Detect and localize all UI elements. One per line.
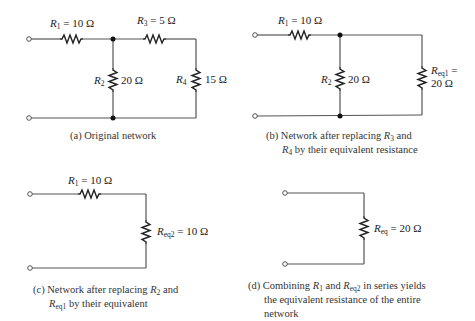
panel-b-after-r3-r4: R1 = 10 Ω R2 20 Ω Req1 = 20 Ω: [253, 14, 458, 119]
terminal-top: [283, 191, 288, 196]
node-dot: [111, 116, 116, 121]
terminal-bottom: [253, 114, 258, 119]
caption-d-line3: network: [248, 307, 426, 321]
caption-c-line2: Req1 by their equivalent: [33, 297, 178, 311]
panel-a-original-network: R1 = 10 Ω R3 = 5 Ω R2 20 Ω R4 15 Ω: [27, 14, 227, 121]
terminal-bottom: [27, 116, 32, 121]
resistor-req1: [418, 66, 426, 90]
panel-d-equivalent: Req = 20 Ω: [283, 191, 422, 267]
terminal-top: [253, 33, 258, 38]
caption-b-line2: R4 by their equivalent resistance: [266, 143, 418, 157]
resistor-r1: [78, 190, 101, 198]
caption-d-line2: the equivalent resistance of the entire: [248, 293, 426, 307]
label-r2-name: R2: [93, 74, 105, 88]
resistor-req: [360, 216, 368, 240]
label-req: Req = 20 Ω: [373, 222, 421, 236]
resistor-r2: [109, 68, 117, 92]
caption-b: (b) Network after replacing R3 and R4 by…: [266, 129, 418, 157]
terminal-top: [27, 37, 32, 42]
node-dot: [338, 114, 343, 119]
resistor-req2: [142, 220, 150, 244]
panel-c-after-r2-req1: R1 = 10 Ω Req2 = 10 Ω: [28, 174, 209, 270]
label-r1: R1 = 10 Ω: [49, 17, 94, 31]
terminal-bottom: [283, 262, 288, 267]
caption-d-line1: (d) Combining R1 and Req2 in series yiel…: [248, 279, 426, 293]
terminal-top: [28, 192, 33, 197]
caption-b-line1: (b) Network after replacing R3 and: [266, 129, 418, 143]
caption-d: (d) Combining R1 and Req2 in series yiel…: [248, 279, 426, 321]
resistor-r1: [60, 35, 83, 43]
label-r2-value: 20 Ω: [121, 74, 143, 86]
node-dot: [111, 37, 116, 42]
label-r1: R1 = 10 Ω: [277, 14, 322, 28]
label-req1-name: Req1 =: [430, 64, 458, 78]
label-req2: Req2 = 10 Ω: [156, 225, 208, 239]
label-r4-value: 15 Ω: [205, 73, 227, 85]
resistor-r1: [288, 31, 311, 39]
caption-a: (a) Original network: [70, 129, 156, 143]
label-req1-value: 20 Ω: [431, 77, 453, 89]
node-dot: [338, 33, 343, 38]
label-r4-name: R4: [175, 73, 187, 87]
caption-c-line1: (c) Network after replacing R2 and: [33, 283, 178, 297]
label-r2-name: R2: [320, 73, 332, 87]
terminal-bottom: [28, 266, 33, 271]
caption-c: (c) Network after replacing R2 and Req1 …: [33, 283, 178, 311]
resistor-r3: [143, 35, 166, 43]
label-r2-value: 20 Ω: [348, 73, 370, 85]
label-r3: R3 = 5 Ω: [136, 14, 176, 28]
resistor-r2: [336, 67, 344, 91]
label-r1: R1 = 10 Ω: [67, 174, 112, 188]
resistor-r4: [192, 68, 200, 92]
